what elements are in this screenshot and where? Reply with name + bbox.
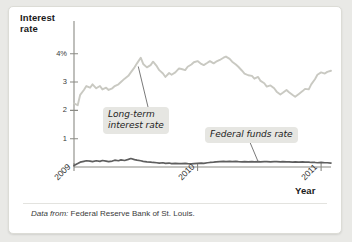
callout-long-term-interest-rate: Long-term interest rate xyxy=(103,107,169,134)
y-tick-label-3: 3 xyxy=(37,77,67,86)
figure-card: Interest rate Year 4%321 200920102011 Lo… xyxy=(8,6,342,234)
callout-federal-funds-rate: Federal funds rate xyxy=(205,127,298,143)
source-divider xyxy=(23,203,327,204)
series-line-long-term-interest-rate xyxy=(74,57,331,106)
y-tick-label-1: 1 xyxy=(37,134,67,143)
y-axis-title: Interest rate xyxy=(20,13,55,34)
x-axis-title: Year xyxy=(295,186,315,197)
series-line-federal-funds-rate xyxy=(74,159,331,166)
chart-axes xyxy=(70,21,331,171)
source-text: Federal Reserve Bank of St. Louis. xyxy=(68,209,194,218)
leader-federal-funds xyxy=(249,140,258,162)
y-tick-label-4: 4% xyxy=(37,49,67,58)
y-tick-label-2: 2 xyxy=(37,105,67,114)
source-note: Data from: Federal Reserve Bank of St. L… xyxy=(31,209,195,218)
interest-rate-line-chart xyxy=(9,7,341,233)
chart-plot-area: Interest rate Year 4%321 200920102011 Lo… xyxy=(9,7,341,233)
source-lead-label: Data from: xyxy=(31,209,68,218)
leader-long-term xyxy=(138,66,148,107)
